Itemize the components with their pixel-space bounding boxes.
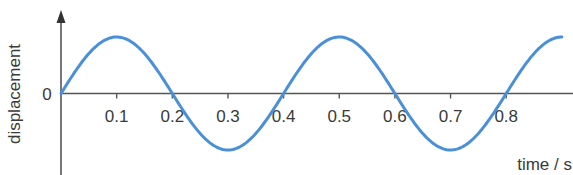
y-tick-label-zero: 0 (42, 85, 51, 104)
x-tick-label: 0.5 (327, 107, 351, 126)
x-tick-labels: 0.10.20.30.40.50.60.70.8 (105, 107, 518, 126)
x-tick-label: 0.1 (105, 107, 129, 126)
x-tick-label: 0.6 (383, 107, 407, 126)
x-tick-label: 0.4 (272, 107, 296, 126)
displacement-time-chart: 0.10.20.30.40.50.60.70.8 0 displacement … (0, 0, 573, 175)
x-tick-label: 0.3 (216, 107, 240, 126)
x-tick-label: 0.8 (494, 107, 518, 126)
x-tick-label: 0.2 (160, 107, 184, 126)
x-tick-label: 0.7 (439, 107, 463, 126)
x-axis-label: time / s (517, 155, 572, 174)
y-axis-arrow-icon (57, 10, 66, 23)
y-axis-label: displacement (5, 44, 24, 144)
